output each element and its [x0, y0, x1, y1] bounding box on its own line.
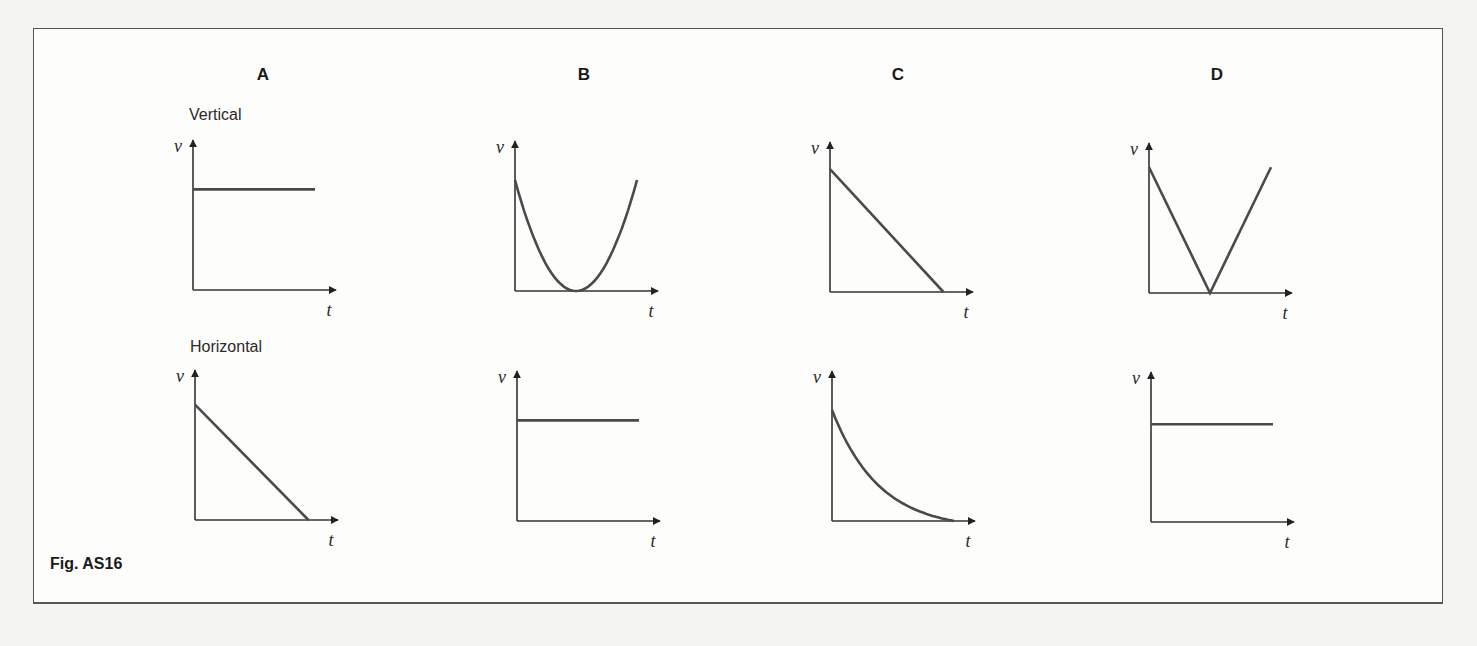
y-axis-label: v [496, 137, 504, 157]
graph-b-horizontal: vt [498, 367, 660, 551]
graph-a-vertical: vt [174, 136, 336, 320]
figure-caption: Fig. AS16 [50, 555, 122, 572]
velocity-curve [1149, 167, 1271, 293]
row-label-horizontal: Horizontal [190, 338, 262, 355]
row-label-vertical: Vertical [189, 106, 241, 123]
x-axis-label: t [1284, 532, 1290, 552]
graph-b-vertical: vt [496, 137, 658, 321]
velocity-curve [195, 405, 308, 520]
x-axis-label: t [1282, 303, 1288, 323]
column-label-c: C [892, 65, 904, 84]
graph-d-horizontal: vt [1132, 368, 1294, 552]
graph-c-vertical: vt [811, 138, 973, 322]
y-axis-label: v [498, 367, 506, 387]
x-axis-label: t [328, 530, 334, 550]
velocity-curve [832, 410, 954, 521]
x-axis-label: t [326, 300, 332, 320]
column-label-b: B [578, 65, 590, 84]
graph-d-vertical: vt [1130, 139, 1292, 323]
x-axis-label: t [963, 302, 969, 322]
x-axis-label: t [965, 531, 971, 551]
y-axis-label: v [1132, 368, 1140, 388]
graph-c-horizontal: vt [813, 367, 975, 551]
velocity-curve [830, 169, 943, 292]
column-label-d: D [1211, 65, 1223, 84]
x-axis-label: t [648, 301, 654, 321]
x-axis-label: t [650, 531, 656, 551]
y-axis-label: v [174, 136, 182, 156]
column-label-a: A [257, 65, 269, 84]
y-axis-label: v [176, 366, 184, 386]
y-axis-label: v [811, 138, 819, 158]
y-axis-label: v [813, 367, 821, 387]
graph-a-horizontal: vt [176, 366, 338, 550]
figure-canvas: A B C D Vertical Horizontal Fig. AS16 vt… [0, 0, 1477, 646]
y-axis-label: v [1130, 139, 1138, 159]
velocity-curve [515, 180, 637, 291]
